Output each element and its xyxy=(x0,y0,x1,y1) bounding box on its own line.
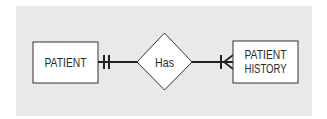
connector-patient-has xyxy=(98,55,137,69)
crows-foot-lower xyxy=(224,62,233,69)
er-diagram: PATIENT Has PATIENT HISTORY xyxy=(0,0,327,119)
relationship-has[interactable]: Has xyxy=(137,33,192,90)
entity-patient-history-label-line2: HISTORY xyxy=(245,62,287,76)
entity-patient-history[interactable]: PATIENT HISTORY xyxy=(233,41,298,83)
entity-patient[interactable]: PATIENT xyxy=(33,42,98,83)
connector-has-patient-history xyxy=(192,55,233,69)
relationship-has-label: Has xyxy=(155,56,174,70)
entity-patient-history-label-line1: PATIENT xyxy=(245,48,288,62)
entity-patient-label: PATIENT xyxy=(45,56,88,70)
crows-foot-upper xyxy=(224,55,233,62)
